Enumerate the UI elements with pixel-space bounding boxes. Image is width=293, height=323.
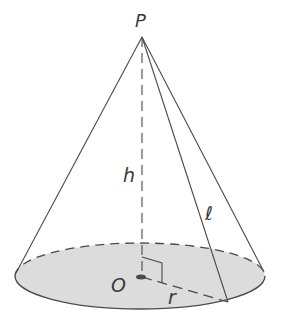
- radius-label: r: [168, 286, 177, 308]
- slant-label: ℓ: [204, 202, 213, 224]
- cone-diagram: P h ℓ O r: [0, 0, 293, 323]
- center-point: [136, 275, 146, 280]
- right-generator: [142, 37, 264, 272]
- center-label: O: [111, 274, 126, 296]
- left-generator: [16, 37, 142, 273]
- height-label: h: [123, 164, 135, 186]
- apex-label: P: [135, 10, 146, 31]
